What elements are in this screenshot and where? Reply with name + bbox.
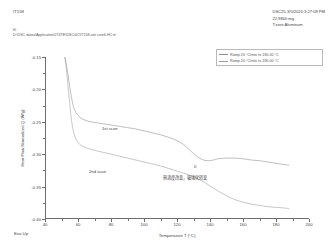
x-minor-tick [194, 219, 195, 221]
header-right-block: DSC25-3/5/2020 3:27:09 PM 22.9800 mg T:z… [272, 9, 325, 29]
x-axis-title: Temperature T (°C) [159, 233, 196, 238]
annotation-1st-scan: 1st scan [102, 126, 118, 131]
file-path: D:\DSC datas\Application\274TE\DSC\4C\IT… [13, 33, 116, 38]
x-tick-label: 100 [141, 222, 148, 227]
x-minor-tick [293, 219, 294, 221]
x-tick-label: 140 [207, 222, 214, 227]
curve-1st-scan [65, 57, 289, 165]
x-tick-label: 160 [240, 222, 247, 227]
x-minor-tick [227, 219, 228, 221]
annotation-zero-marker: 0 [194, 164, 196, 169]
y-tick-label: -0.30 [31, 152, 41, 157]
x-tick-label: 40 [43, 222, 48, 227]
y-axis-title: Heat Flow Normalized Q (W/g) [20, 109, 25, 166]
file-info-block: fil: D:\DSC datas\Application\274TE\DSC\… [13, 28, 116, 39]
sample-mass: 22.9800 mg [272, 16, 325, 23]
y-tick-label: -0.35 [31, 184, 41, 189]
x-tick-label: 200 [306, 222, 313, 227]
plot-area: -0.15-0.20-0.25-0.30-0.35-0.40 406080100… [45, 57, 309, 219]
exo-direction-label: Exo Up [14, 231, 28, 236]
pan-type: T:zero Aluminum [272, 22, 325, 29]
x-minor-tick [95, 219, 96, 221]
sample-name: IT158 [13, 9, 24, 15]
curve-canvas [45, 57, 309, 219]
annotation-glass-transition-note: 热流度改变，玻璃化转变 [163, 174, 207, 180]
y-tick-label: -0.20 [31, 87, 41, 92]
x-minor-tick [161, 219, 162, 221]
x-minor-tick [260, 219, 261, 221]
legend-swatch-icon [219, 54, 228, 55]
y-tick-label: -0.40 [31, 217, 41, 222]
y-tick-label: -0.15 [31, 55, 41, 60]
header-left-block: IT158 fil: D:\DSC datas\Application\274T… [13, 9, 24, 15]
x-tick-label: 60 [76, 222, 81, 227]
dsc-thermogram-page: IT158 fil: D:\DSC datas\Application\274T… [0, 0, 329, 252]
instrument-timestamp: DSC25-3/5/2020 3:27:09 PM [272, 9, 325, 16]
x-minor-tick [62, 219, 63, 221]
annotation-2nd-scan: 2nd scan [89, 169, 106, 174]
x-minor-tick [128, 219, 129, 221]
x-tick-label: 180 [273, 222, 280, 227]
y-tick-label: -0.25 [31, 119, 41, 124]
curve-2nd-scan [65, 57, 289, 209]
x-tick-label: 80 [109, 222, 114, 227]
x-tick-label: 120 [174, 222, 181, 227]
